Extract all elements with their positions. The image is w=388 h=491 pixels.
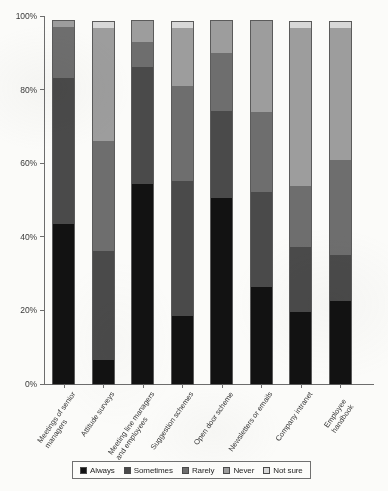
bar-segment[interactable] [52,26,75,78]
bar-segment[interactable] [210,20,233,53]
bar-segment[interactable] [92,250,115,360]
bar-segment[interactable] [131,41,154,67]
bar-column[interactable] [171,16,194,384]
legend-entry[interactable]: Always [80,466,115,475]
y-axis-tick-label: 40% [20,232,37,242]
legend-entry[interactable]: Rarely [182,466,215,475]
bar-column[interactable] [329,16,352,384]
legend-color-swatch [124,467,131,474]
bar-segment[interactable] [250,111,273,192]
bar-segment[interactable] [250,20,273,112]
x-axis-category-label: Open door scheme [192,390,236,447]
bar-segment[interactable] [329,254,352,302]
bar-segment[interactable] [329,159,352,255]
y-axis-tick: 20% [20,305,44,315]
legend-color-swatch [80,467,87,474]
legend-color-swatch [263,467,270,474]
bar-column[interactable] [210,16,233,384]
bar-segment[interactable] [289,311,312,385]
bar-column[interactable] [52,16,75,384]
legend-entry[interactable]: Never [223,466,254,475]
bar-segment[interactable] [52,20,75,27]
bar-segment[interactable] [52,223,75,385]
stacked-bar-chart: 0%20%40%60%80%100% Meetings of senior ma… [0,0,388,491]
chart-legend: AlwaysSometimesRarelyNeverNot sure [72,461,311,479]
x-axis-tick-mark [222,384,223,388]
y-axis-tick-mark [40,384,44,385]
bar-segment[interactable] [92,140,115,250]
bar-segment[interactable] [171,180,194,316]
bar-segment[interactable] [210,197,233,385]
legend-label: Rarely [192,466,215,475]
legend-label: Never [233,466,254,475]
x-axis-tick-mark [261,384,262,388]
y-axis-tick-mark [40,16,44,17]
legend-entry[interactable]: Sometimes [124,466,173,475]
y-axis-tick: 80% [20,85,44,95]
legend-label: Not sure [273,466,302,475]
x-axis-tick-mark [64,384,65,388]
bar-column[interactable] [92,16,115,384]
legend-label: Always [90,466,115,475]
x-axis-tick-mark [301,384,302,388]
plot-area: 0%20%40%60%80%100% [44,16,360,384]
y-axis-tick: 0% [25,379,44,389]
y-axis-tick-label: 20% [20,305,37,315]
legend-entry[interactable]: Not sure [263,466,302,475]
legend-label: Sometimes [134,466,173,475]
bar-segment[interactable] [289,21,312,28]
x-axis-tick-mark [103,384,104,388]
bar-segment[interactable] [131,66,154,184]
bar-segment[interactable] [92,359,115,385]
bar-segment[interactable] [171,315,194,385]
y-axis-tick-label: 60% [20,158,37,168]
bar-column[interactable] [131,16,154,384]
y-axis-tick-mark [40,163,44,164]
y-axis-tick-mark [40,89,44,90]
y-axis-tick: 100% [16,11,44,21]
bar-segment[interactable] [289,185,312,248]
x-axis-category-label: Employee handbook [322,390,361,435]
bar-column[interactable] [250,16,273,384]
x-axis-category-label: Newsletters or emails [227,390,275,453]
bar-segment[interactable] [92,21,115,28]
bar-segment[interactable] [329,300,352,385]
x-axis-tick-mark [182,384,183,388]
bar-segment[interactable] [250,286,273,385]
bar-segment[interactable] [250,191,273,287]
bar-segment[interactable] [171,27,194,86]
x-axis-category-label: Meetings of senior managers [35,390,84,450]
legend-color-swatch [182,467,189,474]
y-axis-tick-mark [40,310,44,311]
y-axis-tick-label: 100% [16,11,37,21]
bar-segment[interactable] [92,27,115,141]
bar-segment[interactable] [329,27,352,159]
bar-segment[interactable] [210,52,233,111]
x-axis-tick-mark [340,384,341,388]
bar-segment[interactable] [289,27,312,185]
y-axis-tick: 40% [20,232,44,242]
x-axis-category-label: Attitude surveys [79,390,117,438]
bar-segment[interactable] [131,20,154,42]
y-axis-tick-label: 80% [20,85,37,95]
bar-column[interactable] [289,16,312,384]
x-axis-tick-mark [143,384,144,388]
y-axis-tick: 60% [20,158,44,168]
y-axis-tick-label: 0% [25,379,37,389]
bar-segment[interactable] [171,85,194,181]
bar-segment[interactable] [52,77,75,224]
bar-segment[interactable] [171,21,194,28]
bar-segment[interactable] [289,246,312,312]
bar-segment[interactable] [131,183,154,385]
bar-segment[interactable] [329,21,352,28]
y-axis-tick-mark [40,236,44,237]
legend-color-swatch [223,467,230,474]
bar-segment[interactable] [210,110,233,198]
x-axis-category-label: Company intranet [273,390,314,443]
